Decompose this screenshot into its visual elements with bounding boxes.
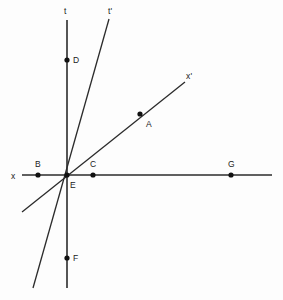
point-label-c: C — [90, 160, 96, 169]
axis-label-x: x — [11, 172, 15, 181]
point-marker-g — [228, 172, 233, 177]
point-label-b: B — [35, 160, 41, 169]
point-marker-d — [64, 57, 69, 62]
minkowski-spacetime-diagram: t x t' x' DABCGEF — [0, 0, 283, 300]
point-label-a: A — [146, 120, 152, 129]
point-label-f: F — [73, 254, 78, 263]
axis-label-x-prime: x' — [186, 72, 192, 81]
diagram-canvas — [0, 0, 283, 300]
t-prime-axis-line — [33, 19, 109, 288]
point-label-d: D — [73, 56, 79, 65]
point-markers-group — [35, 57, 233, 260]
point-marker-a — [137, 111, 142, 116]
point-marker-c — [90, 172, 95, 177]
point-label-g: G — [228, 160, 235, 169]
point-marker-b — [35, 172, 40, 177]
point-label-e: E — [70, 181, 76, 190]
point-marker-f — [64, 255, 69, 260]
point-marker-e — [64, 172, 69, 177]
axis-label-t: t — [64, 7, 67, 16]
axis-label-t-prime: t' — [108, 7, 112, 16]
x-prime-axis-line — [22, 82, 185, 212]
